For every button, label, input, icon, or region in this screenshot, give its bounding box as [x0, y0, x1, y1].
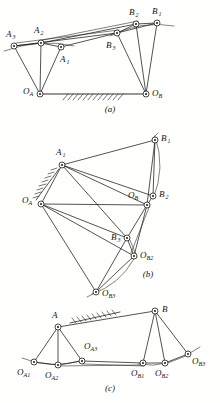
arc-tail-ob3-b: [87, 294, 93, 297]
joint-b3: [114, 30, 120, 36]
link-ob2-ob3-b: [96, 256, 134, 292]
panel-c-labels: A B O A1 O A2 O A3 O B1 O B2 O B3: [17, 304, 205, 381]
label-oa2-c-sub: A2: [51, 375, 59, 381]
label-b3-sub: 3: [111, 45, 115, 51]
label-oa1-c-sub: A1: [23, 372, 31, 378]
wall-line-b: [36, 169, 59, 200]
label-a-c: A: [51, 310, 58, 320]
link-ob2-ob3-c: [165, 354, 188, 363]
label-b2-sub: 2: [135, 12, 138, 18]
label-a1: A: [59, 54, 66, 64]
label-a2: A: [33, 25, 40, 35]
joint-ob2-c: [162, 360, 168, 366]
joint-ob: [143, 91, 149, 97]
caption-b: (b): [143, 269, 154, 279]
label-b-c: B: [162, 304, 168, 314]
label-ob2-c-sub: B2: [162, 373, 169, 379]
joint-a2: [38, 40, 44, 46]
coupler-a3-b3: [14, 33, 117, 46]
label-b3-b: B: [111, 232, 117, 242]
panel-c-arcs: [22, 347, 200, 365]
link-ob-b3-b: [127, 205, 147, 238]
label-a2-sub: 2: [41, 30, 44, 36]
link-b-ob1-c: [143, 311, 155, 363]
link-b-ob2-c: [155, 311, 165, 363]
label-b1-b: B: [161, 133, 167, 143]
label-b1-sub: 1: [158, 11, 161, 17]
link-ob-b1: [146, 23, 157, 94]
panel-a-ground: [40, 94, 146, 100]
joint-b2-b: [150, 193, 156, 199]
label-b3: B: [106, 40, 112, 50]
label-ob3-b-sub: B3: [109, 293, 116, 299]
joint-a-c: [55, 324, 61, 330]
link-a-oa3-c: [58, 327, 82, 361]
joint-b-c: [152, 308, 158, 314]
coupler-edge-a2-b2: [43, 21, 138, 40]
label-ob2-b-sub: B2: [147, 255, 154, 261]
joint-oa3-c: [79, 358, 85, 364]
link-oa-a2: [40, 43, 41, 94]
panel-a: A 3 A 2 A 1 B 3 B 2 B 1 O A O B (a): [4, 6, 174, 114]
label-b2-b: B: [159, 189, 165, 199]
label-oa3-c-sub: A3: [90, 346, 98, 352]
label-b1: B: [152, 6, 158, 16]
label-b2: B: [129, 7, 135, 17]
label-b1-b-sub: 1: [167, 138, 170, 144]
caption-c: (c): [105, 383, 115, 393]
panel-b: A 1 B 1 O A O B B 2 B 3 O B2 O B3 (b): [22, 133, 170, 299]
link-a1-b1-b: [62, 140, 155, 165]
panel-a-arcs: [4, 24, 174, 51]
label-a1-b: A: [55, 147, 62, 157]
label-a1-sub: 1: [67, 59, 70, 65]
panel-c: A B O A1 O A2 O A3 O B1 O B2 O B3 (c): [17, 304, 205, 393]
joint-a3: [11, 43, 17, 49]
arc-ob-circle-c: [138, 347, 200, 365]
panel-b-links: [41, 140, 155, 292]
label-oa-b-sub: A: [28, 200, 33, 206]
label-ob3-c-sub: B3: [199, 361, 206, 367]
joint-ob3-c: [185, 351, 191, 357]
joint-a1: [58, 44, 64, 50]
joint-ob2-b: [131, 253, 137, 259]
label-ob-sub: B: [159, 93, 163, 99]
joint-b3-b: [124, 235, 130, 241]
caption-a: (a): [105, 104, 116, 114]
label-b3-b-sub: 3: [116, 237, 120, 243]
joint-ob1-c: [140, 360, 146, 366]
label-ob-b-sub: B: [135, 195, 139, 201]
mechanism-diagram-svg: A 3 A 2 A 1 B 3 B 2 B 1 O A O B (a): [0, 0, 220, 403]
label-b2-b-sub: 2: [165, 194, 168, 200]
joint-ob3-b: [93, 289, 99, 295]
label-oa-sub: A: [29, 91, 34, 97]
arc-ob2-ob3-b: [92, 259, 134, 294]
link-oa-ob3-b: [41, 204, 96, 292]
joint-a1-b: [59, 162, 65, 168]
link-oa-a1: [40, 47, 61, 94]
link-oa-ob-b: [41, 204, 147, 205]
label-a3: A: [5, 29, 12, 39]
joint-b2: [133, 21, 139, 27]
figure-root: A 3 A 2 A 1 B 3 B 2 B 1 O A O B (a): [0, 0, 220, 403]
joint-b1-b: [152, 137, 158, 143]
joint-b1: [154, 20, 160, 26]
joint-oa2-c: [55, 362, 61, 368]
joint-ob-b: [144, 202, 150, 208]
label-ob1-c-sub: B1: [138, 373, 145, 379]
ground-hatch-a: [63, 94, 123, 100]
joint-oa1-c: [31, 359, 37, 365]
panel-a-labels: A 3 A 2 A 1 B 3 B 2 B 1 O A O B: [5, 6, 163, 99]
joint-oa-b: [38, 201, 44, 207]
link-ob-ob2-b: [134, 205, 147, 256]
link-oa3-ob1-c: [82, 361, 143, 363]
label-a3-sub: 3: [12, 34, 16, 40]
label-a1-b-sub: 1: [63, 152, 66, 158]
joint-oa: [37, 91, 43, 97]
link-a-oa1-c: [34, 327, 58, 362]
link-b-ob3-c: [155, 311, 188, 354]
link-ob-ob2-edge-b: [131, 205, 150, 253]
